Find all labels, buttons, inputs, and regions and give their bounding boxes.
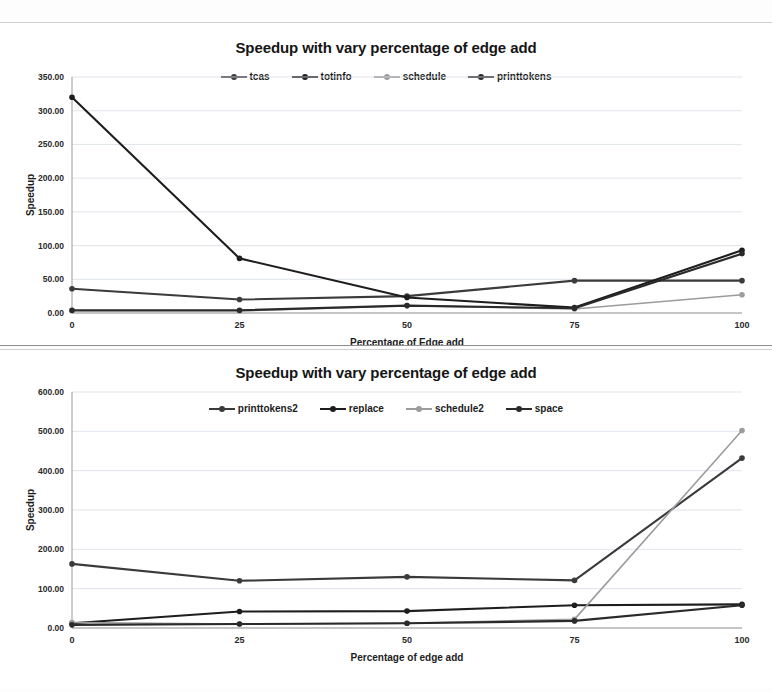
data-point-space [69, 622, 75, 628]
y-axis-tick-label: 600.00 [38, 387, 64, 397]
data-point-replace [572, 602, 578, 608]
data-point-space [739, 602, 745, 608]
data-point-printtokens2 [739, 455, 745, 461]
x-axis-tick-label: 0 [69, 635, 74, 645]
series-line-printtokens [72, 254, 742, 311]
data-point-totinfo [69, 94, 75, 100]
data-point-tcas [739, 278, 745, 284]
data-point-printtokens2 [237, 578, 243, 584]
x-axis-tick-label: 50 [402, 320, 412, 330]
y-axis-title: Speedup [25, 174, 36, 216]
data-point-schedule2 [739, 428, 745, 434]
y-axis-title: Speedup [25, 489, 36, 531]
y-axis-tick-label: 300.00 [38, 505, 64, 515]
data-point-printtokens [739, 251, 745, 257]
y-axis-tick-label: 200.00 [38, 544, 64, 554]
x-axis-tick-label: 100 [734, 635, 749, 645]
data-point-space [404, 620, 410, 626]
x-axis-title: Percentage of Edge add [350, 337, 464, 345]
data-point-printtokens [404, 303, 410, 309]
x-axis-tick-label: 75 [569, 635, 579, 645]
data-point-printtokens [572, 305, 578, 311]
y-axis-tick-label: 0.00 [47, 308, 64, 318]
data-point-schedule [739, 292, 745, 298]
data-point-printtokens [237, 308, 243, 314]
chart-panel-bottom: Speedup with vary percentage of edge add… [0, 349, 772, 688]
scanned-chart-page: Speedup with vary percentage of edge add… [0, 0, 772, 692]
y-axis-tick-label: 150.00 [38, 207, 64, 217]
data-point-printtokens2 [572, 578, 578, 584]
data-point-totinfo [404, 295, 410, 301]
y-axis-tick-label: 300.00 [38, 106, 64, 116]
y-axis-tick-label: 0.00 [47, 623, 64, 633]
y-axis-tick-label: 50.00 [43, 274, 65, 284]
series-line-printtokens2 [72, 458, 742, 581]
x-axis-tick-label: 100 [734, 320, 749, 330]
x-axis-tick-label: 25 [234, 320, 244, 330]
x-axis-title: Percentage of edge add [351, 652, 464, 663]
data-point-printtokens2 [404, 574, 410, 580]
data-point-tcas [69, 286, 75, 292]
x-axis-tick-label: 0 [69, 320, 74, 330]
x-axis-tick-label: 50 [402, 635, 412, 645]
chart-plot-bottom: 0.00100.00200.00300.00400.00500.00600.00… [0, 350, 772, 688]
data-point-space [237, 621, 243, 627]
y-axis-tick-label: 400.00 [38, 466, 64, 476]
y-axis-tick-label: 100.00 [38, 584, 64, 594]
y-axis-tick-label: 500.00 [38, 426, 64, 436]
chart-panel-top: Speedup with vary percentage of edge add… [0, 22, 772, 346]
x-axis-tick-label: 75 [569, 320, 579, 330]
data-point-printtokens [69, 308, 75, 314]
series-line-schedule2 [72, 431, 742, 625]
series-line-totinfo [72, 97, 742, 307]
y-axis-tick-label: 250.00 [38, 139, 64, 149]
y-axis-tick-label: 350.00 [38, 72, 64, 82]
data-point-totinfo [237, 256, 243, 262]
y-axis-tick-label: 200.00 [38, 173, 64, 183]
y-axis-tick-label: 100.00 [38, 241, 64, 251]
data-point-replace [237, 609, 243, 615]
chart-plot-top: 0.0050.00100.00150.00200.00250.00300.003… [0, 23, 772, 345]
x-axis-tick-label: 25 [234, 635, 244, 645]
data-point-space [572, 618, 578, 624]
data-point-tcas [572, 278, 578, 284]
data-point-replace [404, 608, 410, 614]
data-point-tcas [237, 297, 243, 303]
data-point-printtokens2 [69, 561, 75, 567]
